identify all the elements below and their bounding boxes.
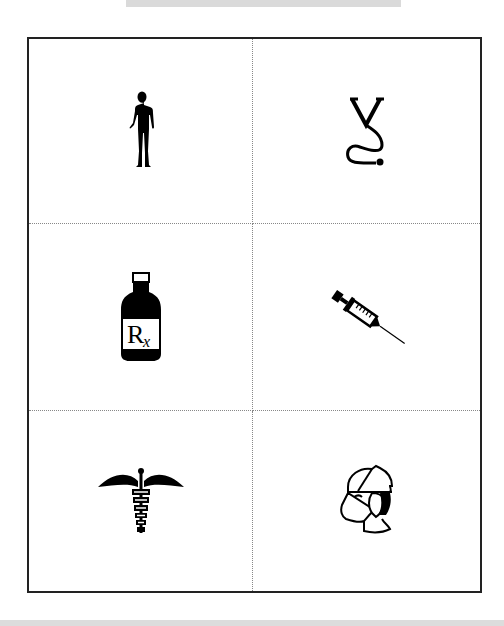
card-caduceus[interactable] bbox=[29, 411, 253, 591]
surgeon-mask-icon bbox=[334, 463, 400, 539]
prescription-bottle-icon: R x bbox=[119, 271, 163, 363]
top-scroll-bar bbox=[126, 0, 401, 7]
caduceus-icon bbox=[96, 465, 186, 537]
card-syringe[interactable] bbox=[253, 224, 480, 411]
stethoscope-icon bbox=[346, 91, 388, 171]
card-surgeon-mask[interactable] bbox=[253, 411, 480, 591]
human-body-icon bbox=[121, 91, 161, 171]
bottom-scroll-bar bbox=[0, 620, 504, 626]
card-grid: R x bbox=[29, 39, 480, 591]
card-stethoscope[interactable] bbox=[253, 39, 480, 224]
syringe-icon bbox=[325, 279, 409, 355]
card-human-body[interactable] bbox=[29, 39, 253, 224]
card-sheet: R x bbox=[27, 37, 482, 593]
svg-text:x: x bbox=[142, 333, 150, 350]
card-prescription-bottle[interactable]: R x bbox=[29, 224, 253, 411]
